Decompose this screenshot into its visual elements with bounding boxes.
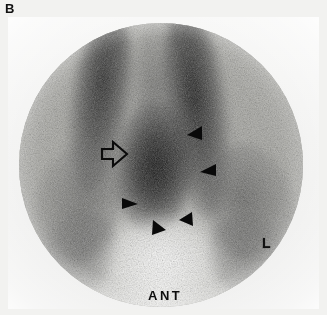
laterality-marker-left: L — [262, 236, 271, 250]
arrowhead-3 — [121, 197, 139, 212]
arrowhead-5 — [150, 218, 168, 237]
scan-plate: L ANT — [8, 17, 319, 309]
panel-letter: B — [5, 2, 14, 15]
gamma-camera-field: L — [19, 23, 303, 307]
open-arrow — [100, 140, 130, 168]
figure-panel: B — [0, 0, 327, 315]
arrowhead-1 — [186, 124, 204, 142]
arrowhead-2 — [199, 163, 217, 179]
orientation-marker-anterior: ANT — [148, 289, 182, 302]
arrowhead-4 — [178, 211, 195, 228]
